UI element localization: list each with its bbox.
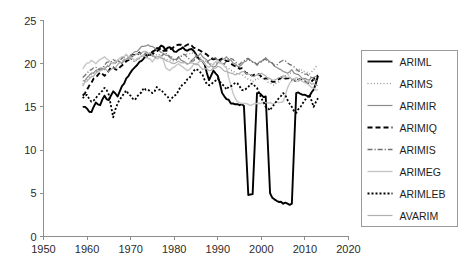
chart-legend: ARIMLARIMSARIMIRARIMIQARIMISARIMEGARIMLE…: [362, 51, 458, 227]
legend-label-arims: ARIMS: [400, 78, 433, 90]
legend-label-arimleb: ARIMLEB: [400, 188, 446, 200]
x-tick-label: 1980: [162, 243, 186, 255]
x-tick-label: 1950: [31, 243, 55, 255]
x-tick-label: 1970: [118, 243, 142, 255]
legend-label-arimir: ARIMIR: [400, 100, 437, 112]
y-tick-label: 20: [24, 58, 36, 70]
y-tick-label: 10: [24, 144, 36, 156]
legend-label-avarim: AVARIM: [400, 210, 439, 222]
x-tick-label: 1990: [206, 243, 230, 255]
x-tick-label: 2020: [336, 243, 360, 255]
legend-label-ariml: ARIML: [400, 56, 432, 68]
x-tick-label: 1960: [75, 243, 99, 255]
x-tick-label: 2000: [249, 243, 273, 255]
chart-figure: 0510152025 19501960197019801990200020102…: [0, 0, 471, 276]
chart-svg: 0510152025 19501960197019801990200020102…: [0, 0, 471, 276]
legend-label-arimeg: ARIMEG: [400, 166, 441, 178]
legend-label-arimiq: ARIMIQ: [400, 122, 437, 134]
y-tick-label: 25: [24, 15, 36, 27]
y-tick-label: 0: [30, 231, 36, 243]
legend-label-arimis: ARIMIS: [400, 144, 436, 156]
x-tick-label: 2010: [293, 243, 317, 255]
y-tick-label: 5: [30, 187, 36, 199]
y-tick-label: 15: [24, 101, 36, 113]
